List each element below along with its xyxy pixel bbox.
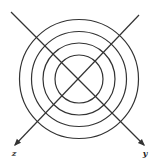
y-axis-label: y — [142, 148, 149, 158]
concentric-circles — [20, 20, 139, 139]
z-axis-label: z — [11, 148, 17, 158]
circle-4 — [20, 20, 139, 139]
concentric-circles-diagram: z y — [0, 0, 154, 162]
